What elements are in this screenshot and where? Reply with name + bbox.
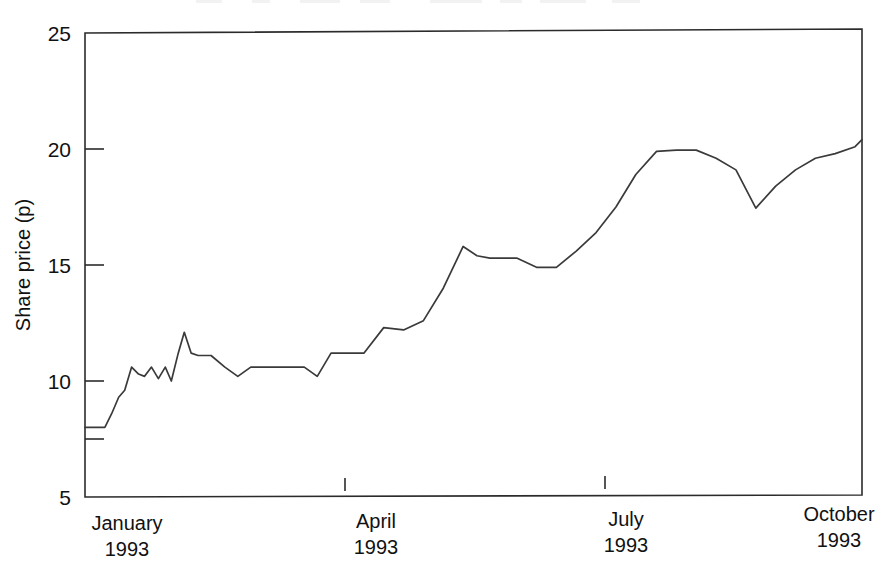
share-price-line xyxy=(85,140,862,428)
y-axis-ticks xyxy=(85,149,104,439)
y-axis-title: Share price (p) xyxy=(12,199,34,331)
x-label-january-month: January xyxy=(91,512,162,534)
plot-frame xyxy=(85,29,862,497)
cropped-caption-smudge xyxy=(196,0,640,3)
chart-canvas: 25 20 15 10 5 Share price (p) January 19… xyxy=(0,0,891,578)
y-tick-label-15: 15 xyxy=(48,254,71,277)
x-label-july-year: 1993 xyxy=(604,534,649,556)
y-tick-label-10: 10 xyxy=(48,370,71,393)
x-label-april-month: April xyxy=(356,510,396,532)
x-axis-ticks xyxy=(345,476,605,491)
x-label-july-month: July xyxy=(608,508,644,530)
y-tick-label-20: 20 xyxy=(48,138,71,161)
x-label-april-year: 1993 xyxy=(354,536,399,558)
x-label-october-year: 1993 xyxy=(817,529,862,551)
x-label-january-year: 1993 xyxy=(105,538,150,560)
y-tick-label-25: 25 xyxy=(48,22,71,45)
share-price-chart-figure: 25 20 15 10 5 Share price (p) January 19… xyxy=(0,0,891,578)
x-label-october-month: October xyxy=(803,503,874,525)
y-tick-label-5: 5 xyxy=(59,486,71,509)
